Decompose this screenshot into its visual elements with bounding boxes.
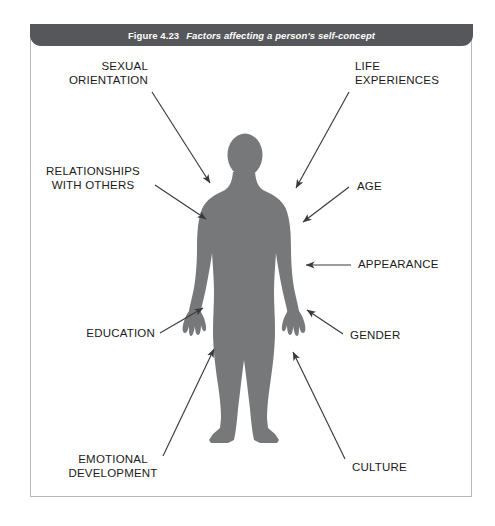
factor-label-age: AGE: [357, 180, 437, 194]
factor-label-relationships: RELATIONSHIPS WITH OTHERS: [38, 165, 148, 192]
arrow-gender: [307, 310, 343, 334]
factor-label-education: EDUCATION: [60, 327, 155, 341]
human-silhouette-icon: [183, 134, 306, 444]
factor-label-life-experiences: LIFE EXPERIENCES: [355, 60, 475, 87]
arrow-life-experiences: [296, 92, 349, 188]
arrow-relationships: [155, 185, 206, 219]
factor-label-gender: GENDER: [350, 329, 430, 343]
arrow-sexual-orientation: [152, 92, 210, 183]
arrow-culture: [293, 352, 345, 459]
factor-label-emotional-development: EMOTIONAL DEVELOPMENT: [58, 453, 168, 480]
figure-container: Figure 4.23 Factors affecting a person's…: [0, 0, 495, 526]
factor-label-sexual-orientation: SEXUAL ORIENTATION: [48, 60, 148, 87]
factor-label-appearance: APPEARANCE: [358, 258, 468, 272]
factor-label-culture: CULTURE: [352, 461, 442, 475]
arrow-emotional-development: [163, 349, 214, 456]
arrow-age: [303, 187, 349, 222]
